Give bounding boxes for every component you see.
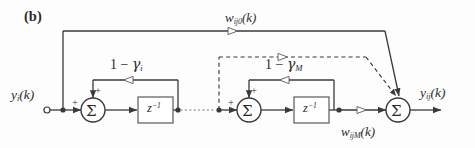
stageM-delay-label: z−1	[303, 102, 317, 115]
input-signal-arg: (k)	[19, 87, 34, 102]
weight-last-label: wijM(k)	[341, 125, 375, 140]
input-terminal-circle	[44, 107, 50, 113]
tapM-weight-arrowhead	[357, 107, 367, 114]
weight-first-base: w	[225, 10, 234, 25]
weight-first-arg: (k)	[242, 10, 256, 25]
gain-first-prefix: 1 −	[110, 57, 132, 72]
stage1-plus-left: +	[72, 97, 78, 108]
stageM-sigma-glyph: Σ	[242, 102, 253, 120]
output-signal-arg: (k)	[430, 85, 445, 100]
weight-first-label: wij0(k)	[225, 11, 256, 26]
gain-last-label: 1 − γM	[265, 57, 302, 73]
tap0-diagonal-into-adder	[385, 31, 399, 96]
panel-tag: (b)	[24, 9, 42, 24]
gain-last-prefix: 1 −	[265, 57, 287, 72]
stage1-plus-top: +	[95, 85, 101, 96]
gain-last-subscript: M	[295, 63, 302, 73]
output-sigma-glyph: Σ	[391, 102, 402, 120]
stageM-gain-arrowhead	[280, 76, 290, 83]
stage1-delay-label: z−1	[147, 102, 161, 115]
figure-panel-b: (b) yi(k) yij(k) wij0(k) wijM(k) 1 − γi …	[0, 0, 475, 148]
stageM-delay-exponent: −1	[308, 101, 317, 110]
weight-last-subscript: ijM	[350, 131, 361, 140]
stage1-gain-arrowhead	[124, 76, 134, 83]
weight-last-base: w	[341, 124, 350, 139]
stageM-plus-left: +	[228, 97, 234, 108]
output-signal-label: yij(k)	[420, 86, 445, 101]
input-signal-label: yi(k)	[11, 88, 34, 103]
gain-first-label: 1 − γi	[110, 57, 143, 73]
stageM-plus-top: +	[251, 85, 257, 96]
gain-first-subscript: i	[140, 63, 142, 73]
stage1-delay-exponent: −1	[152, 101, 161, 110]
weight-first-subscript: ij0	[234, 17, 242, 26]
weight-last-arg: (k)	[361, 124, 375, 139]
tap0-weight-arrowhead	[228, 27, 238, 34]
stage1-sigma-glyph: Σ	[86, 102, 97, 120]
